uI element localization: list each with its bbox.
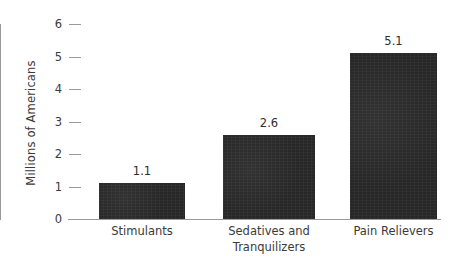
x-axis-line [68, 219, 441, 220]
y-axis-tick-label: 6 [36, 18, 62, 30]
x-axis-category-label: Stimulants [77, 224, 207, 240]
y-axis-tick [69, 24, 81, 25]
y-axis-tick [69, 89, 81, 90]
bar [99, 183, 185, 219]
y-axis-tick-label: 5 [36, 51, 62, 63]
y-axis-tick-label: 0 [36, 213, 62, 225]
bar-value-label: 1.1 [99, 165, 185, 178]
category-label-line: Stimulants [77, 224, 207, 240]
y-axis-line [0, 24, 1, 220]
bar [223, 135, 315, 220]
category-label-line: Tranquilizers [201, 240, 337, 256]
category-label-line: Sedatives and [201, 224, 337, 240]
y-axis-tick [69, 122, 81, 123]
y-axis-tick [69, 187, 81, 188]
y-axis-tick-label: 2 [36, 148, 62, 160]
bar [350, 53, 437, 219]
y-axis-tick [69, 154, 81, 155]
y-axis-tick [69, 57, 81, 58]
x-axis-category-label: Pain Relievers [328, 224, 459, 240]
y-axis-tick-label: 1 [36, 181, 62, 193]
bar-value-label: 2.6 [223, 117, 315, 130]
bar-value-label: 5.1 [350, 35, 437, 48]
x-axis-category-label: Sedatives andTranquilizers [201, 224, 337, 255]
bar-chart: Millions of Americans 0123456 1.12.65.1 … [0, 0, 462, 266]
y-axis-tick [69, 219, 81, 220]
y-axis-tick-label: 4 [36, 83, 62, 95]
category-label-line: Pain Relievers [328, 224, 459, 240]
y-axis-tick-label: 3 [36, 116, 62, 128]
